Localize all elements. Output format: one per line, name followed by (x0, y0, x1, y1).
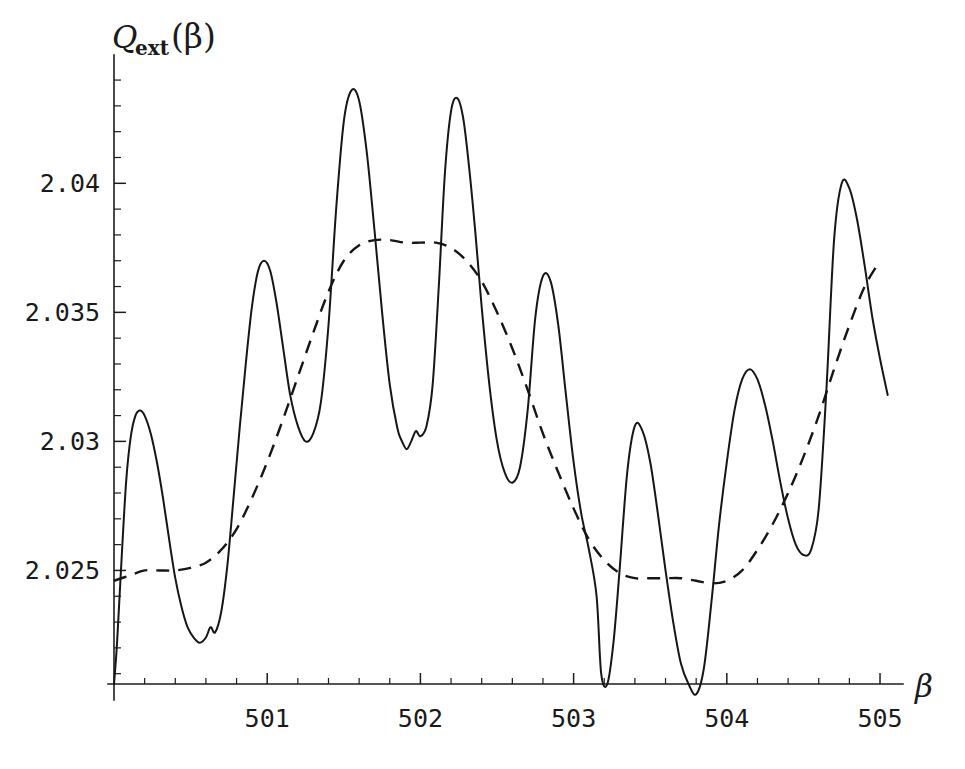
y-axis-tick-label: 2.04 (40, 169, 100, 198)
x-axis-tick-label: 501 (245, 704, 290, 733)
chart-canvas: 2.0252.032.0352.04 501502503504505 Q ext… (0, 0, 965, 769)
y-axis-tick-label: 2.03 (40, 427, 100, 456)
y-axis-tick-label: 2.035 (25, 298, 100, 327)
x-axis-ticks (145, 673, 880, 684)
x-axis-tick-labels: 501502503504505 (245, 704, 903, 733)
figure-container: 2.0252.032.0352.04 501502503504505 Q ext… (0, 0, 965, 769)
x-axis-tick-label: 505 (857, 704, 902, 733)
extinction-efficiency-curve (114, 89, 888, 695)
x-axis-tick-label: 502 (398, 704, 443, 733)
y-axis-tick-label: 2.025 (25, 556, 100, 585)
y-axis-title-subscript: ext (135, 36, 170, 60)
y-axis-title-base: Q (112, 19, 137, 55)
x-axis-tick-label: 504 (704, 704, 749, 733)
smoothed-average-curve (114, 240, 880, 584)
x-axis-tick-label: 503 (551, 704, 596, 733)
y-axis-title-argument: (β) (171, 17, 216, 56)
y-axis-tick-labels: 2.0252.032.0352.04 (25, 169, 100, 585)
x-axis-title: β (914, 668, 933, 704)
y-axis-title: Q ext (β) (112, 17, 216, 60)
